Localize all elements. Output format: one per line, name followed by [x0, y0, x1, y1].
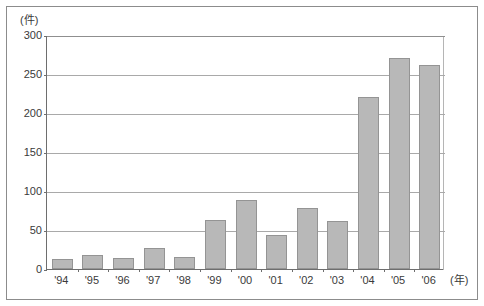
x-tick-mark [414, 269, 415, 272]
y-axis-tick-label: 100 [8, 186, 42, 197]
bar [389, 58, 410, 269]
x-tick-mark [231, 269, 232, 272]
y-axis-tick-labels: 050100150200250300 [6, 36, 42, 270]
bar [327, 221, 348, 269]
x-tick-mark [384, 269, 385, 272]
x-axis-tick-label: '00 [230, 274, 260, 287]
x-axis-tick-label: '99 [199, 274, 229, 287]
x-axis-tick-label: '05 [383, 274, 413, 287]
y-tick-mark [44, 231, 47, 232]
y-tick-mark [44, 270, 47, 271]
x-tick-mark [78, 269, 79, 272]
x-axis-tick-labels: '94'95'96'97'98'99'00'01'02'03'04'05'06(… [46, 274, 466, 294]
x-axis-tick-label: '95 [77, 274, 107, 287]
bar [236, 200, 257, 269]
x-tick-mark [200, 269, 201, 272]
bar [174, 257, 195, 269]
y-axis-tick-label: 250 [8, 69, 42, 80]
y-axis-tick-label: 150 [8, 147, 42, 158]
bar [82, 255, 103, 269]
bar [358, 97, 379, 269]
bar [144, 248, 165, 269]
x-axis-tick-label: '02 [291, 274, 321, 287]
x-axis-tick-label: '01 [261, 274, 291, 287]
bar [419, 65, 440, 269]
x-axis-tick-label: '98 [169, 274, 199, 287]
x-tick-mark [139, 269, 140, 272]
y-tick-mark [44, 114, 47, 115]
y-axis-tick-label: 0 [8, 264, 42, 275]
y-axis-tick-label: 50 [8, 225, 42, 236]
y-tick-mark [44, 153, 47, 154]
bar [205, 220, 226, 269]
y-tick-mark [44, 75, 47, 76]
x-tick-mark [292, 269, 293, 272]
y-axis-tick-label: 200 [8, 108, 42, 119]
x-tick-mark [169, 269, 170, 272]
bar [266, 235, 287, 269]
y-tick-mark [44, 192, 47, 193]
x-axis-tick-label: '06 [414, 274, 444, 287]
y-tick-mark [44, 36, 47, 37]
x-tick-mark [108, 269, 109, 272]
y-axis-tick-label: 300 [8, 30, 42, 41]
x-axis-tick-label: '97 [138, 274, 168, 287]
y-axis-unit-label: (件) [20, 14, 38, 27]
x-axis-tick-label: '03 [322, 274, 352, 287]
plot-area [46, 36, 444, 270]
bar [297, 208, 318, 269]
gridline [47, 153, 445, 154]
bar-chart-figure: (件) 050100150200250300 '94'95'96'97'98'9… [0, 0, 484, 306]
x-tick-mark [353, 269, 354, 272]
x-tick-mark [323, 269, 324, 272]
x-axis-tick-label: '94 [46, 274, 76, 287]
gridline [47, 192, 445, 193]
x-axis-tick-label: '96 [108, 274, 138, 287]
gridline [47, 75, 445, 76]
gridline [47, 36, 445, 37]
bar [52, 259, 73, 269]
bar [113, 258, 134, 269]
x-axis-unit-label: (年) [450, 274, 468, 287]
gridline [47, 114, 445, 115]
x-tick-mark [261, 269, 262, 272]
x-axis-tick-label: '04 [352, 274, 382, 287]
